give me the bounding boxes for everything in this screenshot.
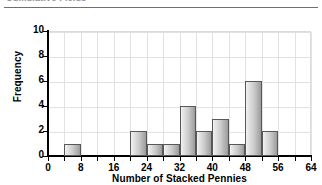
gridline-vertical: [147, 32, 148, 157]
x-axis-tick-label: 32: [168, 162, 192, 173]
x-axis-tick: [262, 157, 263, 161]
gridline-vertical: [97, 32, 98, 157]
x-axis-tick: [295, 157, 296, 161]
x-axis-tick: [229, 157, 230, 161]
x-axis-tick: [163, 157, 164, 161]
y-axis-tick-label: 10: [24, 24, 44, 35]
x-axis-tick-label: 0: [36, 162, 60, 173]
x-axis-tick: [81, 157, 82, 161]
y-axis-tick-label: 2: [24, 124, 44, 135]
histogram-bar: [212, 119, 228, 157]
histogram-bar: [163, 144, 179, 157]
histogram-bar: [196, 131, 212, 156]
x-axis-title: Number of Stacked Pennies: [48, 173, 311, 184]
histogram-bar: [262, 131, 278, 156]
x-axis-tick: [245, 157, 246, 161]
gridline-horizontal: [48, 57, 311, 58]
x-axis-tick: [48, 157, 49, 161]
gridline-vertical: [114, 32, 115, 157]
y-axis-tick-label: 6: [24, 74, 44, 85]
gridline-vertical: [278, 32, 279, 157]
gridline-vertical: [295, 32, 296, 157]
gridline-horizontal: [48, 82, 311, 83]
x-axis-tick-label: 56: [266, 162, 290, 173]
x-axis-tick-label: 40: [200, 162, 224, 173]
x-axis-tick: [311, 157, 312, 161]
gridline-vertical: [64, 32, 65, 157]
x-axis-tick-label: 64: [299, 162, 322, 173]
x-axis-tick: [196, 157, 197, 161]
gridline-vertical: [163, 32, 164, 157]
histogram-bar: [180, 106, 196, 156]
x-axis-tick: [278, 157, 279, 161]
x-axis-tick: [147, 157, 148, 161]
y-axis-tick-label: 0: [24, 149, 44, 160]
x-axis-tick-label: 8: [69, 162, 93, 173]
x-axis-tick-label: 48: [233, 162, 257, 173]
gridline-horizontal: [48, 32, 311, 33]
histogram-bar: [245, 81, 261, 156]
x-axis-tick: [130, 157, 131, 161]
y-axis-title: Frequency: [12, 32, 23, 122]
gridline-vertical: [311, 32, 312, 157]
histogram-figure: Frequency Number of Stacked Pennies 0816…: [0, 9, 322, 185]
histogram-bar: [64, 144, 80, 157]
page-header-strip: Cumulative Fields: [0, 0, 322, 9]
x-axis-tick-label: 16: [102, 162, 126, 173]
gridline-vertical: [229, 32, 230, 157]
histogram-bar: [130, 131, 146, 156]
y-axis-line: [47, 30, 49, 157]
x-axis-tick: [180, 157, 181, 161]
x-axis-tick-label: 24: [135, 162, 159, 173]
x-axis-tick: [97, 157, 98, 161]
x-axis-tick: [212, 157, 213, 161]
histogram-bar: [147, 144, 163, 157]
histogram-bar: [229, 144, 245, 157]
x-axis-tick: [64, 157, 65, 161]
y-axis-tick-label: 4: [24, 99, 44, 110]
header-divider: [4, 7, 318, 8]
y-axis-tick-label: 8: [24, 49, 44, 60]
clipped-header-title: Cumulative Fields: [6, 0, 86, 3]
x-axis-tick: [114, 157, 115, 161]
gridline-vertical: [81, 32, 82, 157]
